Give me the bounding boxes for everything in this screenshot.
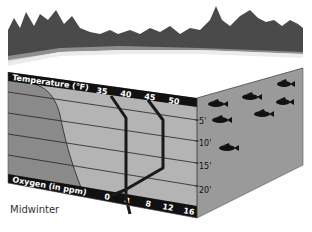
svg-text:40: 40: [120, 89, 133, 99]
svg-text:5': 5': [199, 117, 206, 126]
lake-diagram: Temperature (°F) 35 40 45 50 Oxygen (in …: [0, 0, 312, 232]
svg-text:35: 35: [96, 86, 109, 96]
svg-text:20': 20': [199, 186, 211, 195]
svg-text:50: 50: [168, 96, 181, 106]
svg-text:12: 12: [162, 202, 175, 213]
figure-caption: Midwinter: [10, 204, 59, 215]
svg-text:15': 15': [199, 162, 211, 171]
svg-text:10': 10': [199, 139, 211, 148]
